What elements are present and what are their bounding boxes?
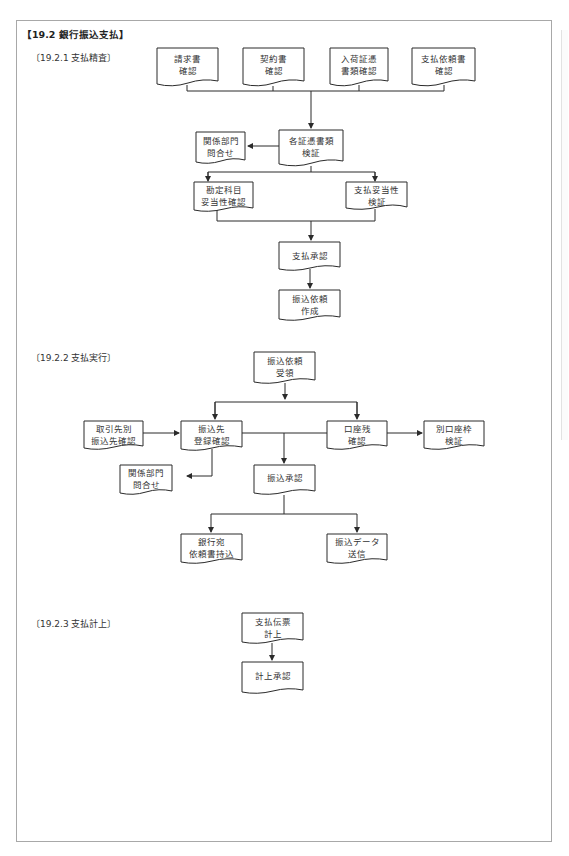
box-receipt-docs-check: 入荷証憑 書類確認	[330, 53, 388, 77]
box-account-balance-check: 口座残 確認	[327, 423, 387, 447]
box-payment-approval: 支払承認	[279, 250, 340, 262]
box-posting-approval: 計上承認	[242, 670, 303, 682]
box-invoice-check: 請求書 確認	[157, 53, 218, 77]
box-account-validity: 勘定科目 妥当性確認	[194, 184, 253, 208]
box-voucher-crosscheck: 各証憑書類 検証	[279, 135, 343, 159]
box-payee-registration-check: 振込先 登録確認	[181, 423, 242, 447]
box-payment-request-check: 支払依頼書 確認	[412, 53, 475, 77]
box-dept-inquiry: 関係部門 問合せ	[196, 135, 245, 159]
box-transfer-request-receive: 振込依頼 受領	[254, 355, 315, 379]
box-other-account-limit: 別口座枠 検証	[424, 423, 484, 447]
box-transfer-data-send: 振込データ 送信	[327, 536, 387, 560]
box-transfer-approval: 振込承認	[254, 472, 315, 484]
box-payment-validity: 支払妥当性 検証	[346, 184, 407, 208]
box-transfer-request-create: 振込依頼 作成	[279, 293, 340, 317]
box-contract-check: 契約書 確認	[243, 53, 304, 77]
box-bank-document-delivery: 銀行宛 依頼書持込	[181, 536, 242, 560]
box-dept-inquiry-2: 関係部門 問合せ	[120, 467, 172, 491]
box-payment-slip-post: 支払伝票 計上	[242, 616, 303, 640]
box-vendor-payee-check: 取引先別 振込先確認	[84, 423, 143, 447]
